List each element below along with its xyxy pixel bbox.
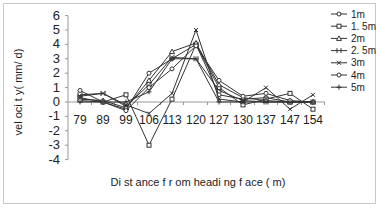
data-point-marker bbox=[170, 49, 175, 54]
x-tick-label: 99 bbox=[119, 113, 133, 127]
data-point-marker bbox=[241, 94, 245, 98]
y-tick-label: -4 bbox=[48, 152, 60, 167]
x-tick-label: 79 bbox=[73, 113, 87, 127]
y-tick-label: 1 bbox=[53, 80, 60, 95]
line-chart: 6543210-1-2-3-47989991061131201271301371… bbox=[0, 0, 379, 208]
x-axis-label: Di st ance f r om headi ng f ace ( m) bbox=[111, 176, 286, 188]
y-tick-label: 5 bbox=[53, 22, 60, 37]
x-tick-label: 113 bbox=[162, 113, 181, 127]
legend-label: 5m bbox=[351, 82, 365, 93]
legend-label: 1. 5m bbox=[351, 21, 376, 32]
legend-label: 2m bbox=[351, 33, 365, 44]
data-point-marker bbox=[264, 91, 268, 95]
data-point-marker bbox=[217, 78, 221, 82]
legend-marker bbox=[337, 36, 342, 41]
x-tick-label: 89 bbox=[96, 113, 110, 127]
y-tick-label: 0 bbox=[53, 94, 60, 109]
legend-label: 2. 5m bbox=[351, 45, 376, 56]
y-tick-label: -2 bbox=[48, 123, 60, 138]
legend-label: 4m bbox=[351, 70, 365, 81]
y-tick-label: 3 bbox=[53, 51, 60, 66]
data-point-marker bbox=[124, 109, 128, 113]
x-tick-label: 154 bbox=[303, 113, 323, 127]
series-line-5m bbox=[80, 59, 313, 102]
data-point-marker bbox=[311, 107, 315, 111]
x-tick-label: 130 bbox=[233, 113, 253, 127]
y-tick-label: 2 bbox=[53, 65, 60, 80]
y-tick-label: -1 bbox=[48, 108, 60, 123]
legend-marker bbox=[337, 85, 342, 90]
data-point-marker bbox=[170, 67, 174, 71]
data-point-marker bbox=[170, 97, 174, 101]
y-tick-label: -3 bbox=[48, 137, 60, 152]
data-point-marker bbox=[147, 71, 151, 75]
legend-marker bbox=[337, 12, 341, 16]
legend-marker bbox=[337, 73, 341, 77]
legend-label: 1m bbox=[351, 9, 365, 20]
data-point-marker bbox=[288, 91, 292, 95]
x-tick-label: 120 bbox=[186, 113, 206, 127]
data-point-marker bbox=[78, 88, 82, 92]
data-point-marker bbox=[288, 107, 292, 111]
data-point-marker bbox=[147, 86, 151, 90]
data-point-marker bbox=[311, 93, 315, 97]
legend-label: 3m bbox=[351, 57, 365, 68]
data-point-marker bbox=[264, 86, 268, 90]
data-point-marker bbox=[194, 44, 198, 48]
legend-marker bbox=[337, 24, 341, 28]
x-tick-label: 127 bbox=[209, 113, 229, 127]
data-point-marker bbox=[147, 143, 151, 147]
x-tick-label: 147 bbox=[280, 113, 300, 127]
x-tick-label: 137 bbox=[256, 113, 276, 127]
x-tick-label: 106 bbox=[139, 113, 159, 127]
y-tick-label: 6 bbox=[53, 8, 60, 23]
y-tick-label: 4 bbox=[53, 36, 60, 51]
data-point-marker bbox=[124, 93, 128, 97]
y-axis-label: vel oci t y( mm/ d) bbox=[12, 49, 24, 136]
